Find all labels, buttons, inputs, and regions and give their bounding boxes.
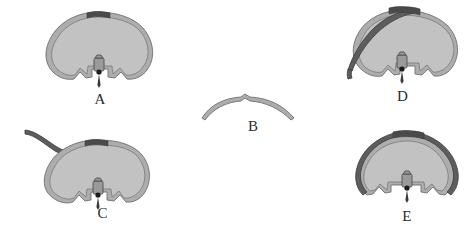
needle-tip-e xyxy=(405,190,408,203)
figure-container: A B C xyxy=(0,0,474,233)
panel-e-artwork xyxy=(348,130,466,209)
hub-dot-c xyxy=(95,192,100,197)
hub-dot-e xyxy=(404,185,409,190)
panel-a-label: A xyxy=(30,92,170,107)
hub-cap-d xyxy=(398,52,406,55)
hub-dot-d xyxy=(399,66,404,71)
overlay-wire-tail-d xyxy=(347,69,352,79)
arch-outer-edge-b xyxy=(202,94,294,120)
panel-b-label: B xyxy=(198,119,308,134)
panel-a-artwork xyxy=(30,6,170,92)
panel-d: D xyxy=(340,6,465,112)
panel-b: B xyxy=(198,92,308,138)
panel-d-label: D xyxy=(340,89,465,104)
hub-dot-a xyxy=(96,69,101,74)
connector-hub-e xyxy=(402,171,412,203)
needle-tip-d xyxy=(400,71,403,84)
hub-body-a xyxy=(94,58,104,71)
panel-a: A xyxy=(30,6,170,116)
connector-hub-d xyxy=(397,52,407,84)
wire-arch-b xyxy=(202,94,294,120)
hub-body-e xyxy=(402,174,412,187)
panel-c-label: C xyxy=(30,206,175,221)
panel-e-label: E xyxy=(348,209,466,224)
hub-cap-e xyxy=(403,171,411,174)
needle-tip-a xyxy=(97,74,100,88)
panel-c: C xyxy=(22,128,167,231)
connector-hub-a xyxy=(94,55,104,88)
panel-e: E xyxy=(348,130,466,233)
hub-cap-a xyxy=(95,55,103,58)
hub-body-c xyxy=(93,181,103,194)
panel-c-artwork xyxy=(22,128,167,208)
panel-d-artwork xyxy=(340,6,465,89)
hub-cap-c xyxy=(94,178,102,181)
hub-body-d xyxy=(397,55,407,68)
